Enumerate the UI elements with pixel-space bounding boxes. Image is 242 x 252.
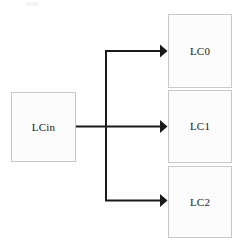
node-lcin[interactable]: LCin (11, 92, 76, 162)
node-lc2[interactable]: LC2 (168, 166, 232, 238)
node-lc1[interactable]: LC1 (168, 90, 232, 163)
edge-lcin-lc2-arrowhead (160, 194, 168, 207)
diagram-canvas: LCin LC0 LC1 LC2 (0, 0, 242, 252)
edge-lcin-lc1-arrowhead (160, 120, 168, 133)
node-lc1-label: LC1 (190, 121, 210, 132)
edge-lcin-lc0-arrowhead (160, 45, 168, 58)
node-lcin-label: LCin (32, 122, 55, 133)
node-lc0-label: LC0 (190, 46, 210, 57)
edge-lcin-lc0-line (106, 51, 160, 127)
node-lc2-label: LC2 (190, 197, 210, 208)
edge-lcin-lc2-line (106, 127, 160, 201)
scan-artifact (26, 2, 38, 6)
node-lc0[interactable]: LC0 (168, 14, 232, 88)
